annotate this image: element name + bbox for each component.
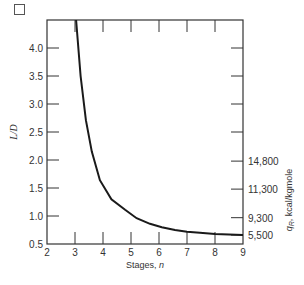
right-axis-ticks: 5,5009,30011,30014,800 [231,48,279,241]
plot-frame [47,20,243,244]
data-curve [76,20,243,235]
right-tick-label: 5,500 [248,230,273,241]
x-tick-label: 2 [44,247,50,258]
plot-border [47,20,243,244]
y-tick-label: 1.0 [29,211,43,222]
x-tick-label: 3 [72,247,78,258]
x-tick-label: 6 [156,247,162,258]
x-tick-label: 8 [212,247,218,258]
right-tick-label: 14,800 [248,156,279,167]
right-tick-label: 9,300 [248,213,273,224]
x-tick-label: 4 [100,247,106,258]
y-tick-label: 0.5 [29,239,43,250]
y-axis-label: L/D [8,123,19,140]
y-axis-ticks: 0.51.01.52.02.53.03.54.0 [29,43,59,250]
x-tick-label: 7 [184,247,190,258]
y-tick-label: 2.0 [29,155,43,166]
y-tick-label: 3.5 [29,71,43,82]
y-tick-label: 4.0 [29,43,43,54]
right-tick-label: 11,300 [248,184,278,195]
x-tick-label: 5 [128,247,134,258]
right-axis-label: qR, kcal/kgmole [284,169,295,232]
chart: 23456789 0.51.01.52.02.53.03.54.0 5,5009… [0,0,304,285]
y-tick-label: 1.5 [29,183,43,194]
y-tick-label: 3.0 [29,99,43,110]
x-tick-label: 9 [240,247,246,258]
x-axis-label: Stages, n [126,260,164,270]
y-tick-label: 2.5 [29,127,43,138]
